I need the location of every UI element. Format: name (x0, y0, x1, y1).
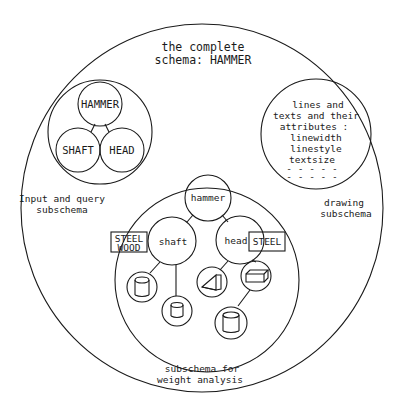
input-node-shaft-label: SHAFT (62, 144, 94, 156)
large-cylinder-icon (215, 307, 247, 339)
material-left-line2: WOOD (118, 242, 141, 253)
weight-node-head-label: head (225, 235, 248, 246)
drawing-content-line4: linewidth (290, 132, 341, 143)
input-node-hammer-label: HAMMER (81, 98, 120, 110)
drawing-content-line1: lines and (292, 99, 343, 110)
drawing-content-dashes2: - - - - - (286, 171, 337, 182)
weight-node-shaft-label: shaft (159, 236, 188, 247)
weight-subschema-label-line1: subschema for (165, 363, 240, 374)
complete-schema-title-line2: schema: HAMMER (155, 53, 252, 67)
weight-node-hammer-label: hammer (191, 192, 226, 203)
complete-schema-title-line1: the complete (161, 40, 244, 54)
drawing-subschema-label-line2: subschema (320, 208, 371, 219)
weight-subschema-label-line2: weight analysis (157, 374, 243, 385)
drawing-subschema-label-line1: drawing (324, 197, 364, 208)
input-node-head-label: HEAD (109, 144, 134, 156)
small-cylinder-icon (162, 296, 192, 326)
material-right: STEEL (253, 236, 282, 247)
drawing-content-line2: texts and their (273, 110, 359, 121)
input-subschema (48, 80, 152, 184)
input-subschema-label-line2: subschema (36, 204, 87, 215)
hammer-schema-diagram: the complete schema: HAMMER HAMMER SHAFT… (0, 0, 408, 411)
drawing-content-line3: attributes : (280, 121, 349, 132)
input-subschema-label-line1: Input and query (19, 193, 105, 204)
cylinder-icon (127, 272, 157, 302)
drawing-content-line5: linestyle (290, 143, 342, 154)
box-icon (241, 261, 271, 291)
weight-subschema (111, 175, 299, 372)
wedge-icon (197, 267, 227, 297)
